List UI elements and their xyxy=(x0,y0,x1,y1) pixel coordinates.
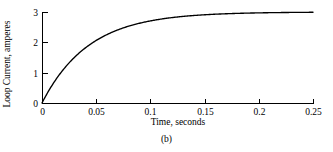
figure-caption: (b) xyxy=(0,133,333,145)
data-curve-group xyxy=(42,12,313,103)
data-curve xyxy=(42,12,313,103)
tick-marks-group xyxy=(43,13,314,104)
figure-container: 012300.050.10.150.20.25 Loop Current, am… xyxy=(0,0,333,152)
x-axis-title: Time, seconds xyxy=(42,116,314,128)
axes-group xyxy=(43,12,314,104)
y-tick-label: 0 xyxy=(33,99,38,109)
tick-labels-group: 012300.050.10.150.20.25 xyxy=(33,8,322,117)
y-tick-label: 1 xyxy=(33,69,38,79)
y-tick-label: 3 xyxy=(33,8,38,18)
chart-plot-area: 012300.050.10.150.20.25 xyxy=(0,0,333,152)
y-tick-label: 2 xyxy=(33,38,38,48)
y-axis-title: Loop Current, amperes xyxy=(0,11,14,117)
